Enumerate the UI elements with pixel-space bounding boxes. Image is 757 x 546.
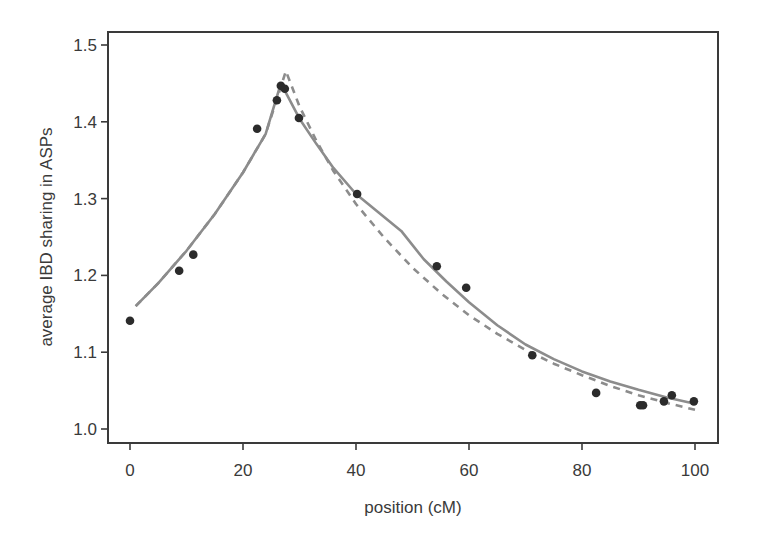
data-point bbox=[273, 96, 282, 105]
data-point bbox=[295, 114, 304, 123]
y-axis: 1.01.11.21.31.41.5 bbox=[73, 36, 108, 439]
y-tick-label: 1.4 bbox=[73, 113, 97, 132]
chart: 1.01.11.21.31.41.5 020406080100 position… bbox=[0, 0, 757, 546]
x-tick-label: 0 bbox=[125, 461, 134, 480]
y-tick-label: 1.5 bbox=[73, 36, 97, 55]
data-point bbox=[126, 316, 135, 325]
data-point bbox=[353, 190, 362, 199]
data-point bbox=[281, 84, 290, 93]
fitted-lines bbox=[136, 71, 695, 410]
data-point bbox=[660, 397, 669, 406]
data-point bbox=[189, 250, 198, 259]
x-tick-label: 20 bbox=[234, 461, 253, 480]
data-point bbox=[175, 266, 184, 275]
y-axis-title: average IBD sharing in ASPs bbox=[37, 127, 56, 346]
dashed-fit-line bbox=[136, 71, 695, 410]
x-tick-label: 60 bbox=[460, 461, 479, 480]
y-tick-label: 1.0 bbox=[73, 420, 97, 439]
y-tick-label: 1.1 bbox=[73, 343, 97, 362]
x-tick-label: 40 bbox=[347, 461, 366, 480]
data-point bbox=[462, 283, 471, 292]
y-tick-label: 1.3 bbox=[73, 190, 97, 209]
plot-frame bbox=[108, 32, 718, 443]
data-point bbox=[668, 391, 677, 400]
solid-fit-line bbox=[136, 83, 695, 403]
y-tick-label: 1.2 bbox=[73, 266, 97, 285]
data-point bbox=[592, 389, 601, 398]
data-point bbox=[528, 351, 537, 360]
x-axis: 020406080100 bbox=[125, 443, 709, 480]
x-tick-label: 80 bbox=[573, 461, 592, 480]
x-tick-label: 100 bbox=[681, 461, 709, 480]
x-axis-title: position (cM) bbox=[364, 498, 461, 517]
data-point bbox=[432, 262, 441, 271]
data-point bbox=[639, 401, 648, 410]
data-point bbox=[690, 397, 699, 406]
data-point bbox=[253, 124, 262, 133]
